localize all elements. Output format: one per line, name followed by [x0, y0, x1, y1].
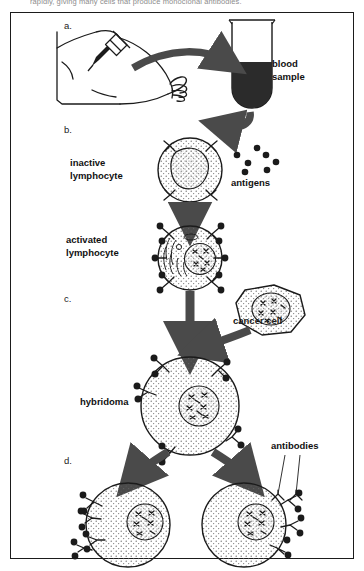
antigen-dots-cluster — [234, 145, 280, 176]
diagram-artwork — [0, 0, 364, 571]
arrow-tube-to-lymphocyte — [220, 112, 250, 127]
syringe-needle — [92, 46, 110, 66]
inner-elbow-line — [62, 62, 73, 79]
daughter-left-nucleus — [127, 504, 163, 540]
antigen-dot — [254, 145, 261, 152]
syringe-barrel — [106, 34, 128, 56]
arrow-arm-to-tube — [133, 52, 228, 68]
elbow-crease — [92, 90, 116, 97]
inactive-lymphocyte-cell — [158, 138, 222, 202]
needle-tip — [88, 65, 93, 71]
daughter-right-nucleus — [238, 504, 274, 540]
syringe-icon — [88, 31, 130, 71]
antigen-dot — [234, 152, 241, 159]
activated-lymphocyte-cell — [152, 223, 229, 294]
test-tube-group — [229, 20, 275, 108]
antigen-dot — [242, 169, 249, 176]
arrow-cancer-to-hybridoma — [200, 330, 250, 348]
arm-with-syringe-group — [57, 31, 187, 104]
hybridoma-cell — [134, 355, 245, 466]
upper-arm-outline — [120, 38, 173, 98]
antigen-dot — [263, 152, 270, 159]
finger-3 — [173, 95, 185, 101]
cancer-cell-nucleus — [252, 293, 290, 325]
daughter-cell-left — [71, 483, 170, 567]
syringe-plunger-line — [110, 40, 121, 51]
diagram-stage: rapidly, giving many cells that produce … — [0, 0, 364, 571]
daughter-cell-right — [202, 483, 304, 567]
activated-cell-nucleus — [185, 244, 216, 275]
antibodies-leader-lines — [278, 455, 300, 494]
tube-blood-fill — [232, 62, 272, 108]
forearm-lower-outline — [120, 94, 168, 104]
hybridoma-nucleus — [179, 386, 219, 426]
arrow-hybridoma-to-daughter-right — [213, 452, 248, 478]
inactive-cell-nucleus — [171, 148, 209, 189]
antigen-dot — [245, 160, 252, 167]
antigen-dot — [273, 159, 280, 166]
antigen-dot — [264, 167, 271, 174]
